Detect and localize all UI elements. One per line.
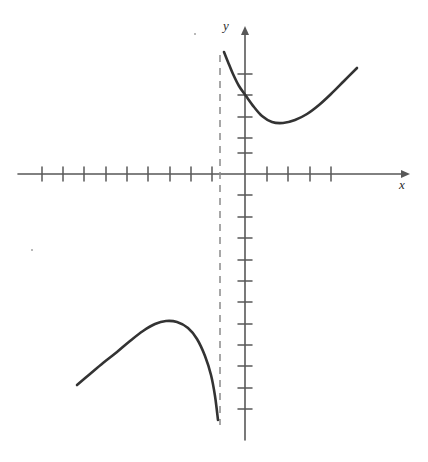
y-axis-label: y: [223, 19, 229, 32]
curve-upper-branch: [224, 52, 357, 123]
x-axis-group: [18, 167, 410, 181]
function-graph-figure: y x: [0, 0, 428, 462]
graph-canvas: [0, 0, 428, 462]
curve-lower-branch: [77, 321, 218, 420]
scan-speck-top: [194, 33, 196, 35]
scan-speck-left: [31, 249, 33, 251]
x-axis-label: x: [399, 178, 405, 191]
y-axis-arrow-icon: [241, 26, 249, 35]
